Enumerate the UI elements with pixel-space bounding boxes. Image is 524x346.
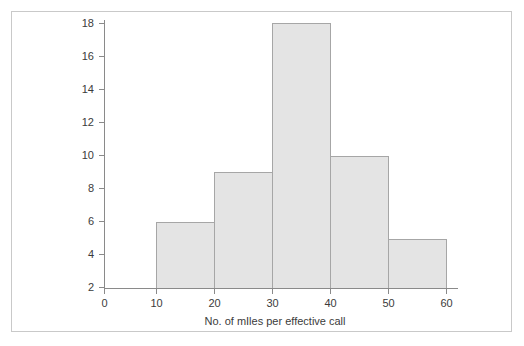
x-axis-title: No. of mIles per effective call bbox=[204, 315, 345, 327]
histogram-bar bbox=[215, 172, 273, 289]
y-tick-label: 6 bbox=[88, 215, 94, 227]
x-axis-tick-labels: 0 10 20 30 40 50 60 bbox=[101, 297, 452, 309]
x-tick-label: 40 bbox=[324, 297, 336, 309]
histogram-plot: 18 16 14 12 10 8 6 4 2 bbox=[0, 0, 524, 346]
histogram-bar bbox=[273, 24, 331, 289]
y-tick-label: 10 bbox=[82, 149, 94, 161]
y-tick-label: 2 bbox=[88, 281, 94, 293]
histogram-bar bbox=[389, 239, 447, 289]
y-axis-ticks bbox=[99, 24, 104, 288]
x-tick-label: 60 bbox=[440, 297, 452, 309]
y-tick-label: 8 bbox=[88, 182, 94, 194]
y-tick-label: 16 bbox=[82, 50, 94, 62]
y-tick-label: 18 bbox=[82, 17, 94, 29]
y-tick-label: 4 bbox=[88, 248, 94, 260]
x-axis-ticks bbox=[105, 289, 447, 295]
y-tick-label: 14 bbox=[82, 83, 94, 95]
y-tick-label: 12 bbox=[82, 116, 94, 128]
x-tick-label: 20 bbox=[208, 297, 220, 309]
histogram-bar bbox=[157, 223, 215, 289]
histogram-bar bbox=[331, 157, 389, 289]
x-tick-label: 10 bbox=[150, 297, 162, 309]
x-tick-label: 30 bbox=[266, 297, 278, 309]
histogram-figure: 18 16 14 12 10 8 6 4 2 bbox=[0, 0, 524, 346]
y-axis-tick-labels: 18 16 14 12 10 8 6 4 2 bbox=[82, 17, 94, 293]
x-tick-label: 0 bbox=[101, 297, 107, 309]
x-tick-label: 50 bbox=[382, 297, 394, 309]
histogram-bars bbox=[157, 24, 447, 289]
